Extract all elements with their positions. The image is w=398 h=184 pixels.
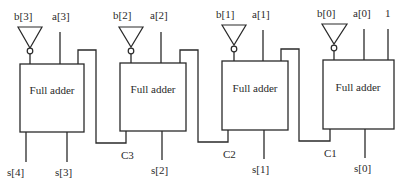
inverter-b0-bubble-icon	[331, 45, 337, 51]
full-adder-3	[20, 64, 84, 132]
inverter-b1-bubble-icon	[231, 46, 237, 52]
carry-c2-label: C2	[223, 148, 236, 160]
carry-in-label: 1	[385, 7, 391, 19]
stage-2: b[2] a[2] Full adder C3 s[2]	[113, 9, 186, 176]
inverter-b1-icon	[222, 25, 246, 45]
carry-c1-label: C1	[324, 147, 337, 159]
full-adder-1-label: Full adder	[233, 82, 278, 94]
full-adder-0-label: Full adder	[336, 81, 381, 93]
output-s0-label: s[0]	[354, 162, 371, 174]
input-b0-label: b[0]	[317, 7, 335, 19]
input-a3-label: a[3]	[52, 10, 70, 22]
full-adder-2-label: Full adder	[131, 83, 176, 95]
input-a1-label: a[1]	[252, 8, 270, 20]
inverter-b2-icon	[119, 27, 143, 47]
carry-c3-label: C3	[121, 149, 134, 161]
input-a0-label: a[0]	[353, 7, 371, 19]
inverter-b0-icon	[322, 24, 347, 44]
stage-0: b[0] a[0] 1 Full adder C1 s[0]	[317, 7, 394, 174]
full-adder-3-label: Full adder	[30, 84, 75, 96]
subtractor-circuit-diagram: b[3] a[3] Full adder s[4] s[3] b[2] a[2]…	[0, 0, 398, 184]
input-b2-label: b[2]	[113, 9, 131, 21]
carry-wire-c3	[78, 50, 126, 143]
inverter-b3-icon	[18, 27, 42, 48]
carry-wire-c2	[180, 50, 228, 142]
full-adder-1	[222, 61, 288, 130]
output-s4-label: s[4]	[7, 166, 24, 178]
stage-1: b[1] a[1] Full adder C2 s[1]	[216, 8, 288, 175]
inverter-b3-bubble-icon	[27, 48, 33, 54]
input-a2-label: a[2]	[150, 9, 168, 21]
output-s2-label: s[2]	[151, 164, 168, 176]
stage-3: b[3] a[3] Full adder s[4] s[3]	[7, 10, 84, 178]
full-adder-0	[323, 60, 394, 129]
input-b1-label: b[1]	[216, 8, 234, 20]
input-b3-label: b[3]	[14, 10, 32, 22]
output-s1-label: s[1]	[252, 163, 269, 175]
output-s3-label: s[3]	[55, 166, 72, 178]
full-adder-2	[120, 63, 186, 131]
inverter-b2-bubble-icon	[128, 48, 134, 54]
